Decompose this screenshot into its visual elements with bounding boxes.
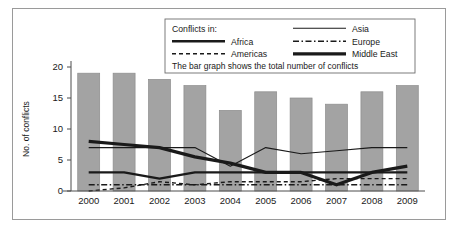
legend-note: The bar graph shows the total number of … <box>172 61 358 71</box>
legend-heading: Conflicts in: <box>172 24 217 34</box>
chart-legend: Conflicts in:AfricaAmericasAsiaEuropeMid… <box>165 19 415 73</box>
conflicts-chart: 0510152020002001200220032004200520062007… <box>13 9 445 219</box>
chart-figure: 0510152020002001200220032004200520062007… <box>12 8 446 220</box>
x-tick-label-2005: 2005 <box>255 195 276 206</box>
legend-label-middle-east: Middle East <box>352 49 398 59</box>
bar-2004 <box>219 110 241 191</box>
x-tick-label-2002: 2002 <box>149 195 170 206</box>
bar-2006 <box>290 98 312 191</box>
bar-2009 <box>396 86 418 191</box>
x-tick-label-2004: 2004 <box>220 195 241 206</box>
legend-label-asia: Asia <box>352 24 369 34</box>
x-tick-label-2003: 2003 <box>184 195 205 206</box>
x-tick-label-2001: 2001 <box>114 195 135 206</box>
y-axis-title: No. of conflicts <box>21 101 31 157</box>
y-tick-label-5: 5 <box>58 154 63 165</box>
legend-label-africa: Africa <box>231 37 253 47</box>
line-asia <box>89 148 408 167</box>
x-tick-label-2008: 2008 <box>361 195 382 206</box>
y-tick-label-15: 15 <box>52 92 63 103</box>
bar-2002 <box>149 79 171 191</box>
x-tick-label-2000: 2000 <box>78 195 99 206</box>
x-tick-label-2009: 2009 <box>397 195 418 206</box>
legend-label-europe: Europe <box>352 37 380 47</box>
y-tick-label-20: 20 <box>52 61 63 72</box>
x-tick-label-2006: 2006 <box>291 195 312 206</box>
legend-label-americas: Americas <box>231 49 268 59</box>
line-series-group <box>89 141 408 191</box>
bar-2003 <box>184 86 206 191</box>
bar-2005 <box>255 92 277 191</box>
y-tick-label-0: 0 <box>58 185 63 196</box>
x-tick-label-2007: 2007 <box>326 195 347 206</box>
y-tick-label-10: 10 <box>52 123 63 134</box>
